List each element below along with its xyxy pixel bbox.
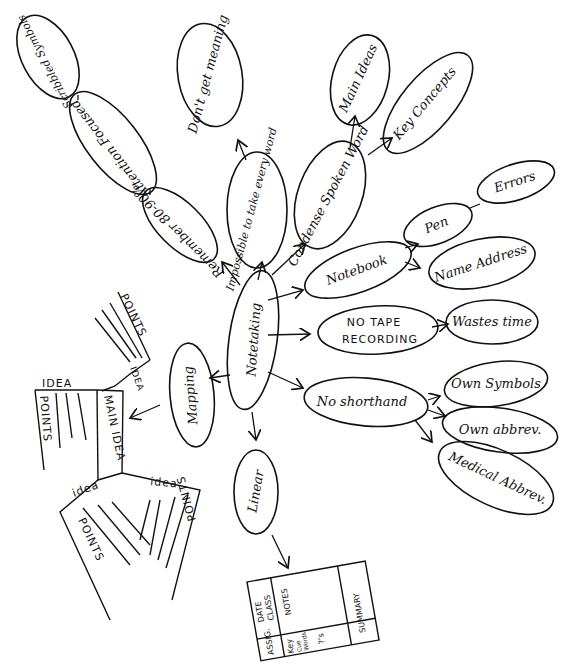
node-medical-abbrev: Medical Abbrev.	[428, 426, 564, 529]
no-tape-line1: NO TAPE	[347, 316, 401, 329]
assig-text: ASSIG.	[262, 628, 276, 656]
medical-abbrev-label: Medical Abbrev.	[445, 448, 549, 507]
points-text-top: POINTS	[117, 292, 149, 339]
impossible-label: Impossible to take every word	[223, 126, 279, 293]
linear-label: Linear	[244, 468, 267, 515]
node-errors: Errors	[472, 153, 559, 212]
node-no-shorthand: No shorthand	[302, 373, 430, 432]
questions-text: ?'s	[316, 633, 327, 645]
node-scribbled: Scribbled Symbols	[4, 5, 92, 111]
no-tape-line2: RECORDING	[342, 333, 418, 346]
node-impossible: Impossible to take every word	[223, 126, 287, 293]
pen-label: Pen	[421, 213, 450, 236]
summary-text: SUMMARY	[352, 592, 368, 633]
dont-get-label: Don't get meaning	[184, 13, 230, 136]
node-condense: Condense Spoken Word	[281, 123, 379, 269]
key-concepts-label: Key Concepts	[389, 64, 459, 144]
node-key-concepts: Key Concepts	[368, 39, 488, 167]
linear-grid: ASSIG. DATE CLASS NOTES Key Cue Words ?'…	[247, 561, 379, 661]
node-wastes-time: Wastes time	[446, 300, 538, 344]
points-text-lower-right: POINTS	[174, 474, 199, 522]
mapping-label: Mapping	[180, 366, 200, 427]
node-main-ideas: Main Ideas	[321, 28, 399, 131]
attention-label: Attention Focused	[67, 97, 153, 201]
name-address-label: Name Address	[431, 241, 529, 286]
own-abbrev-label: Own abbrev.	[459, 422, 542, 437]
own-symbols-label: Own Symbols	[451, 376, 541, 391]
node-name-address: Name Address	[424, 228, 540, 297]
node-own-symbols: Own Symbols	[441, 355, 550, 413]
notetaking-label: Notetaking	[243, 302, 263, 378]
node-dont-get: Don't get meaning	[169, 13, 250, 136]
node-notebook: Notebook	[298, 230, 418, 310]
main-idea-text: MAIN IDEA	[101, 394, 128, 462]
mapping-sketch: MAIN IDEA IDEA POINTS POINTS IDEA idea i…	[35, 292, 200, 620]
idea-text-upper-right: IDEA	[128, 365, 146, 392]
idea-text-lower-left: idea	[71, 478, 101, 500]
scribbled-label: Scribbled Symbols	[15, 12, 76, 110]
idea-text-top: IDEA	[42, 377, 72, 390]
notes-text: NOTES	[280, 588, 294, 616]
mind-map-diagram: Notetaking Remember 80-90% Attention Foc…	[0, 0, 572, 670]
no-shorthand-label: No shorthand	[316, 394, 407, 409]
idea-text-lower-right: idea	[150, 475, 179, 490]
node-mapping: Mapping	[166, 341, 219, 448]
node-attention: Attention Focused	[54, 78, 171, 208]
node-no-tape: NO TAPE RECORDING	[317, 303, 439, 357]
wastes-time-label: Wastes time	[452, 314, 532, 329]
node-linear: Linear	[234, 450, 278, 534]
errors-label: Errors	[491, 168, 537, 196]
